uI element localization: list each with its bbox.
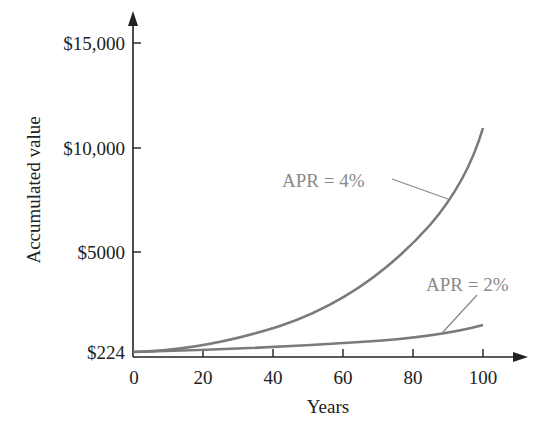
annotation-apr-4-leader: [392, 179, 448, 199]
y-axis-title: Accumulated value: [23, 116, 44, 263]
x-tick-label-40: 40: [264, 367, 283, 388]
series-apr-4: [133, 128, 483, 352]
x-tick-label-0: 0: [129, 367, 139, 388]
annotation-apr-4: APR = 4%: [282, 170, 365, 191]
x-axis-title: Years: [307, 396, 349, 417]
y-tick-label-224: $224: [87, 342, 126, 363]
y-tick-label-15000: $15,000: [63, 33, 125, 54]
x-tick-label-100: 100: [469, 367, 498, 388]
y-tick-label-10000: $10,000: [63, 138, 125, 159]
chart: $15,000 $10,000 $5000 $224 0 20 40 60 80…: [0, 0, 538, 427]
x-tick-label-80: 80: [404, 367, 423, 388]
annotation-apr-2: APR = 2%: [426, 274, 509, 295]
x-tick-label-20: 20: [194, 367, 213, 388]
x-axis-arrow-icon: [513, 352, 528, 362]
annotation-apr-2-leader: [443, 295, 477, 332]
y-tick-label-5000: $5000: [78, 242, 126, 263]
y-axis-arrow-icon: [128, 11, 138, 26]
x-tick-label-60: 60: [334, 367, 353, 388]
